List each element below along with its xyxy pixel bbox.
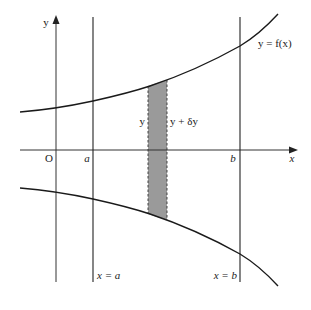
- curve-label: y = f(x): [258, 37, 292, 50]
- diagram-canvas: y O a b x y = f(x) y y + δy x = a x = b: [0, 0, 311, 310]
- origin-label: O: [45, 152, 53, 164]
- y-axis-label: y: [43, 16, 49, 28]
- line-a-label: x = a: [96, 269, 121, 281]
- strip-left-label: y: [140, 115, 146, 127]
- tick-label-b: b: [230, 152, 236, 164]
- x-axis-label: x: [289, 152, 295, 164]
- y-axis-arrow-icon: [53, 15, 60, 24]
- tick-label-a: a: [84, 152, 90, 164]
- line-b-label: x = b: [213, 269, 238, 281]
- strip-right-label: y + δy: [170, 115, 198, 127]
